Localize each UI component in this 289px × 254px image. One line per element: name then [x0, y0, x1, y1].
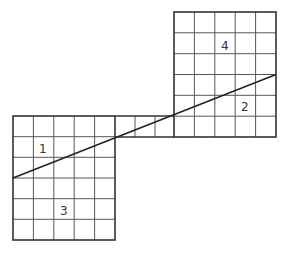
- grid-diagram: 1 2 3 4: [0, 0, 289, 254]
- region-label-3: 3: [60, 204, 68, 218]
- region-label-4: 4: [221, 39, 229, 53]
- diagonal-cut-line: [13, 75, 276, 179]
- region-label-1: 1: [39, 142, 47, 156]
- lower-left-grid: [13, 116, 115, 240]
- region-label-2: 2: [241, 100, 249, 114]
- upper-right-grid: [174, 12, 276, 137]
